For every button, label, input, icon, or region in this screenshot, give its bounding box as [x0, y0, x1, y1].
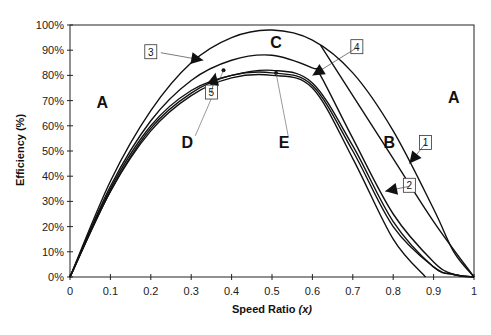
x-tick-label: 0.3 — [184, 285, 199, 297]
y-tick-label: 20% — [42, 221, 64, 233]
x-tick-label: 0.6 — [305, 285, 320, 297]
y-tick-label: 60% — [42, 120, 64, 132]
y-tick-label: 10% — [42, 246, 64, 258]
arrowhead-icon — [312, 64, 325, 75]
y-tick-label: 70% — [42, 95, 64, 107]
region-label-B: B — [383, 134, 395, 151]
leader-line-E — [276, 73, 288, 136]
x-tick-label: 0.9 — [426, 285, 441, 297]
y-tick-label: 90% — [42, 44, 64, 56]
plot-area: 0%10%20%30%40%50%60%70%80%90%100%00.10.2… — [36, 19, 477, 297]
y-tick-label: 30% — [42, 195, 64, 207]
y-tick-label: 80% — [42, 69, 64, 81]
x-tick-label: 0.2 — [143, 285, 158, 297]
arrowhead-icon — [385, 183, 398, 195]
x-tick-label: 0.8 — [386, 285, 401, 297]
leader-line-D — [195, 70, 223, 136]
y-tick-label: 100% — [36, 19, 64, 31]
y-tick-label: 0% — [48, 271, 64, 283]
y-axis-label: Efficiency (%) — [14, 114, 26, 186]
x-tick-label: 0 — [67, 285, 73, 297]
series-line-5a — [70, 70, 474, 277]
region-label-A: A — [97, 94, 109, 111]
arrowhead-icon — [409, 150, 421, 163]
region-label-A: A — [448, 89, 460, 106]
y-tick-label: 40% — [42, 170, 64, 182]
x-tick-label: 0.5 — [264, 285, 279, 297]
callout-label-4: 4 — [354, 42, 360, 53]
x-tick-label: 0.7 — [345, 285, 360, 297]
y-tick-label: 50% — [42, 145, 64, 157]
callout-label-2: 2 — [407, 180, 413, 191]
callout-label-3: 3 — [148, 47, 154, 58]
x-tick-label: 1 — [471, 285, 477, 297]
series-line-3-4-boundary — [320, 45, 474, 277]
x-axis-label: Speed Ratio (x) — [232, 303, 312, 315]
series-line-2 — [70, 55, 474, 277]
efficiency-chart: 0%10%20%30%40%50%60%70%80%90%100%00.10.2… — [0, 0, 491, 335]
callout-label-1: 1 — [423, 137, 429, 148]
region-label-C: C — [270, 34, 282, 51]
x-tick-label: 0.4 — [224, 285, 239, 297]
region-label-D: D — [181, 134, 193, 151]
region-label-E: E — [279, 134, 290, 151]
x-tick-label: 0.1 — [103, 285, 118, 297]
